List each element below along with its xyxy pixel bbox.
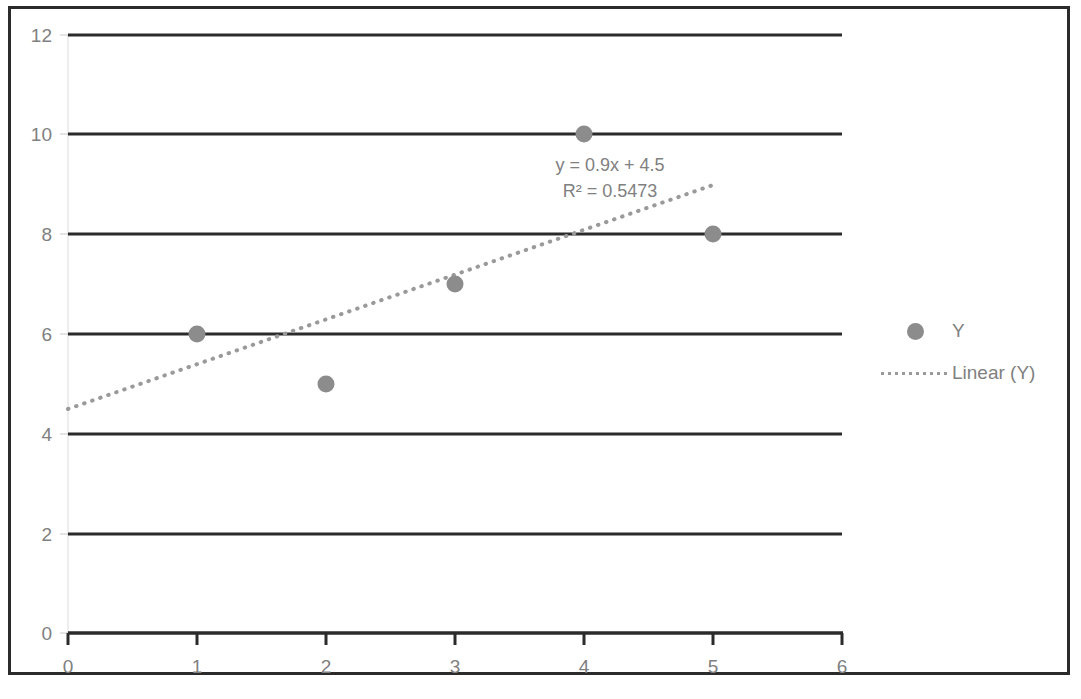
trendline-equation-text: y = 0.9x + 4.5: [500, 152, 720, 178]
x-axis-tick-label: 0: [63, 657, 74, 676]
x-axis-tick-label: 5: [708, 657, 719, 676]
y-axis-tick-label: 10: [4, 125, 52, 144]
circle-marker-icon: [907, 323, 924, 340]
y-axis-tick-label: 2: [4, 525, 52, 544]
legend-label-y: Y: [952, 320, 965, 342]
data-point: [705, 226, 722, 243]
x-axis-tick-label: 6: [837, 657, 848, 676]
trendline-r-squared-text: R² = 0.5473: [500, 178, 720, 204]
legend-item-linear-y: Linear (Y): [878, 352, 1068, 394]
trendline-annotation: y = 0.9x + 4.5 R² = 0.5473: [500, 152, 720, 204]
legend-label-linear-y: Linear (Y): [952, 362, 1035, 384]
dotted-line-icon: [879, 372, 951, 375]
x-axis-tick-label: 2: [321, 657, 332, 676]
data-point: [447, 276, 464, 293]
trendline-linear-y: [68, 185, 713, 409]
legend-line-icon: [878, 372, 952, 375]
x-axis-ticks: [68, 633, 842, 645]
x-axis-tick-label: 3: [450, 657, 461, 676]
y-axis-tick-label: 8: [4, 225, 52, 244]
scatter-chart: 12 10 8 6 4 2 0 0 1 2 3 4 5 6 y = 0.9x +…: [0, 0, 1081, 699]
y-axis-tick-label: 4: [4, 425, 52, 444]
chart-legend: Y Linear (Y): [878, 310, 1068, 394]
y-axis-tick-label: 0: [4, 624, 52, 643]
y-axis-tick-label: 6: [4, 325, 52, 344]
data-point: [576, 126, 593, 143]
legend-item-y: Y: [878, 310, 1068, 352]
y-axis-ticks: [60, 35, 68, 633]
x-axis-tick-label: 1: [192, 657, 203, 676]
y-axis-tick-label: 12: [4, 26, 52, 45]
x-axis-tick-label: 4: [579, 657, 590, 676]
data-point: [318, 376, 335, 393]
chart-screenshot: 12 10 8 6 4 2 0 0 1 2 3 4 5 6 y = 0.9x +…: [0, 0, 1081, 699]
legend-marker-icon: [878, 323, 952, 340]
data-point: [189, 326, 206, 343]
